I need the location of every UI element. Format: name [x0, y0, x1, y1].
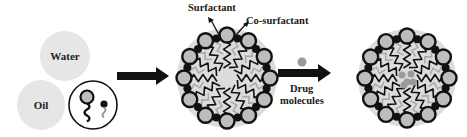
microemulsion-diagram: Water Oil Surfactant Co-surfactant Drug … [0, 0, 467, 137]
drug-loaded-microemulsion-droplet [0, 0, 467, 137]
